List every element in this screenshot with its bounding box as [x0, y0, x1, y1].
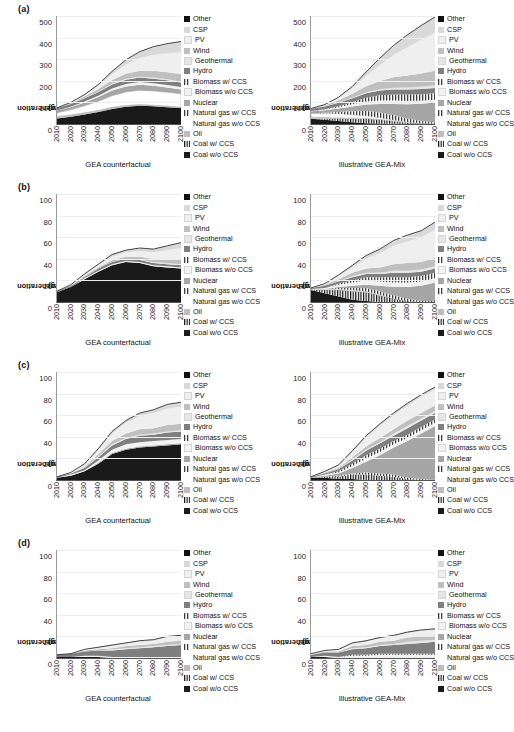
legend-item[interactable]: Hydro: [438, 66, 510, 76]
legend-item[interactable]: Oil: [438, 485, 510, 495]
legend-item[interactable]: Other: [184, 192, 256, 202]
legend-item[interactable]: Natural gas w/o CCS: [184, 296, 256, 306]
legend-item[interactable]: CSP: [184, 558, 256, 568]
legend-item[interactable]: Biomass w/o CCS: [184, 621, 256, 631]
legend-item[interactable]: Oil: [184, 307, 256, 317]
legend-item[interactable]: Natural gas w/o CCS: [438, 474, 510, 484]
legend-item[interactable]: Coal w/o CCS: [438, 506, 510, 516]
legend-item[interactable]: PV: [438, 569, 510, 579]
legend-item[interactable]: CSP: [184, 380, 256, 390]
legend-item[interactable]: Geothermal: [438, 412, 510, 422]
legend-item[interactable]: Coal w/ CCS: [438, 495, 510, 505]
legend-item[interactable]: PV: [184, 391, 256, 401]
legend-item[interactable]: Natural gas w/o CCS: [438, 296, 510, 306]
legend-item[interactable]: Natural gas w/ CCS: [184, 642, 256, 652]
legend-item[interactable]: Other: [438, 14, 510, 24]
legend-item[interactable]: Coal w/o CCS: [184, 150, 256, 160]
legend-item[interactable]: Biomass w/ CCS: [184, 77, 256, 87]
legend-item[interactable]: Coal w/ CCS: [184, 317, 256, 327]
legend-item[interactable]: Nuclear: [438, 454, 510, 464]
legend-item[interactable]: CSP: [184, 202, 256, 212]
legend-item[interactable]: CSP: [438, 24, 510, 34]
legend-item[interactable]: PV: [438, 35, 510, 45]
legend-item[interactable]: Natural gas w/o CCS: [184, 118, 256, 128]
legend-item[interactable]: Coal w/o CCS: [438, 150, 510, 160]
legend-item[interactable]: Wind: [184, 401, 256, 411]
legend-item[interactable]: Wind: [438, 45, 510, 55]
legend-item[interactable]: Geothermal: [184, 56, 256, 66]
legend-item[interactable]: Other: [438, 548, 510, 558]
legend-item[interactable]: Biomass w/o CCS: [438, 443, 510, 453]
legend-item[interactable]: CSP: [438, 558, 510, 568]
legend-item[interactable]: Biomass w/o CCS: [184, 265, 256, 275]
legend-item[interactable]: Wind: [438, 223, 510, 233]
legend-item[interactable]: Geothermal: [438, 56, 510, 66]
legend-item[interactable]: Geothermal: [184, 234, 256, 244]
legend-item[interactable]: PV: [184, 569, 256, 579]
legend-item[interactable]: Coal w/ CCS: [184, 139, 256, 149]
legend-item[interactable]: Wind: [438, 401, 510, 411]
legend-item[interactable]: Nuclear: [184, 276, 256, 286]
legend-item[interactable]: Hydro: [184, 600, 256, 610]
legend-item[interactable]: Biomass w/ CCS: [438, 77, 510, 87]
legend-item[interactable]: CSP: [438, 202, 510, 212]
legend-item[interactable]: Geothermal: [438, 590, 510, 600]
legend-item[interactable]: Other: [438, 370, 510, 380]
legend-item[interactable]: Coal w/o CCS: [184, 684, 256, 694]
legend-item[interactable]: Wind: [184, 579, 256, 589]
legend-item[interactable]: Coal w/ CCS: [184, 495, 256, 505]
legend-item[interactable]: Biomass w/o CCS: [184, 443, 256, 453]
legend-item[interactable]: Coal w/o CCS: [438, 684, 510, 694]
legend-item[interactable]: Coal w/ CCS: [438, 139, 510, 149]
legend-item[interactable]: Biomass w/o CCS: [438, 621, 510, 631]
legend-item[interactable]: Coal w/o CCS: [184, 328, 256, 338]
legend-item[interactable]: Other: [438, 192, 510, 202]
legend-item[interactable]: Hydro: [184, 66, 256, 76]
legend-item[interactable]: Coal w/ CCS: [438, 317, 510, 327]
legend-item[interactable]: Biomass w/ CCS: [184, 255, 256, 265]
legend-item[interactable]: Oil: [184, 129, 256, 139]
legend-item[interactable]: Natural gas w/o CCS: [438, 118, 510, 128]
legend-item[interactable]: Hydro: [184, 422, 256, 432]
legend-item[interactable]: Oil: [184, 663, 256, 673]
legend-item[interactable]: PV: [184, 213, 256, 223]
legend-item[interactable]: Geothermal: [184, 590, 256, 600]
legend-item[interactable]: Natural gas w/ CCS: [438, 286, 510, 296]
legend-item[interactable]: Nuclear: [184, 454, 256, 464]
legend-item[interactable]: Biomass w/ CCS: [438, 611, 510, 621]
legend-item[interactable]: Nuclear: [438, 276, 510, 286]
legend-item[interactable]: Hydro: [438, 422, 510, 432]
legend-item[interactable]: PV: [438, 391, 510, 401]
legend-item[interactable]: Biomass w/o CCS: [184, 87, 256, 97]
legend-item[interactable]: Natural gas w/o CCS: [184, 474, 256, 484]
legend-item[interactable]: Biomass w/o CCS: [438, 265, 510, 275]
legend-item[interactable]: Biomass w/o CCS: [438, 87, 510, 97]
legend-item[interactable]: Oil: [438, 307, 510, 317]
legend-item[interactable]: Hydro: [438, 600, 510, 610]
legend-item[interactable]: Coal w/o CCS: [438, 328, 510, 338]
legend-item[interactable]: Other: [184, 548, 256, 558]
legend-item[interactable]: Nuclear: [184, 98, 256, 108]
legend-item[interactable]: Coal w/ CCS: [184, 673, 256, 683]
legend-item[interactable]: Natural gas w/ CCS: [438, 108, 510, 118]
legend-item[interactable]: Oil: [184, 485, 256, 495]
legend-item[interactable]: Natural gas w/o CCS: [184, 652, 256, 662]
legend-item[interactable]: Wind: [184, 45, 256, 55]
legend-item[interactable]: CSP: [438, 380, 510, 390]
legend-item[interactable]: Natural gas w/ CCS: [184, 286, 256, 296]
legend-item[interactable]: Other: [184, 370, 256, 380]
legend-item[interactable]: Natural gas w/ CCS: [184, 108, 256, 118]
legend-item[interactable]: Oil: [438, 129, 510, 139]
legend-item[interactable]: Coal w/ CCS: [438, 673, 510, 683]
legend-item[interactable]: Hydro: [184, 244, 256, 254]
legend-item[interactable]: Nuclear: [438, 98, 510, 108]
legend-item[interactable]: Other: [184, 14, 256, 24]
legend-item[interactable]: Geothermal: [438, 234, 510, 244]
legend-item[interactable]: Natural gas w/ CCS: [184, 464, 256, 474]
legend-item[interactable]: Biomass w/ CCS: [438, 255, 510, 265]
legend-item[interactable]: Biomass w/ CCS: [438, 433, 510, 443]
legend-item[interactable]: PV: [438, 213, 510, 223]
legend-item[interactable]: Geothermal: [184, 412, 256, 422]
legend-item[interactable]: PV: [184, 35, 256, 45]
legend-item[interactable]: Nuclear: [184, 632, 256, 642]
